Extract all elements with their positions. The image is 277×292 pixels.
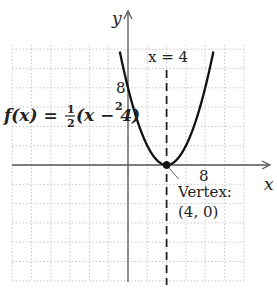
function-label-suffix: (x − 4) [76,105,140,125]
function-label-exponent: 2 [115,100,123,113]
y-tick-label-8: 8 [116,79,126,97]
vertex-label-title: Vertex: [177,183,232,201]
axis-of-symmetry-label: x = 4 [148,48,188,66]
graph: y x 8 8 x = 4 Vertex: (4, 0) f(x) = 1 2 … [0,0,277,292]
function-label-frac-num: 1 [67,103,75,116]
labels: y x 8 8 x = 4 Vertex: (4, 0) f(x) = 1 2 … [3,8,274,221]
x-axis-label: x [264,174,274,194]
y-axis-label: y [111,8,122,28]
vertex-label-coords: (4, 0) [178,203,218,221]
function-label-frac-den: 2 [67,117,75,130]
svg-text:f(x) =: f(x) = [3,105,58,125]
function-label: f(x) = 1 2 (x − 4) 2 [3,100,140,130]
function-label-prefix: f(x) = [3,105,58,125]
